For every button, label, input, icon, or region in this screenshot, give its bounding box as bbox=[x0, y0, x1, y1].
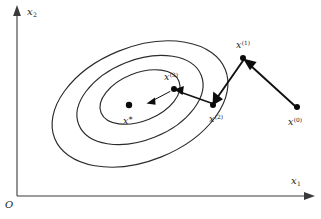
contour-descent-figure: x2 x1 O x(0) x(1) x(2) x(3) x* bbox=[0, 0, 321, 219]
point-marker-xstar bbox=[126, 102, 132, 108]
point-marker-x0 bbox=[294, 104, 300, 110]
point-label-x3-base: x bbox=[164, 71, 169, 82]
point-label-xstar: x* bbox=[123, 116, 132, 126]
descent-path-group bbox=[147, 59, 296, 107]
point-label-x2: x(2) bbox=[209, 114, 223, 124]
origin-label: O bbox=[5, 200, 13, 210]
step-1-to-2-shaft bbox=[217, 60, 244, 98]
x-axis-arrowhead-icon bbox=[304, 192, 315, 200]
y-axis-label-subscript: 2 bbox=[33, 11, 37, 18]
point-label-x2-superscript: (2) bbox=[215, 114, 223, 120]
x-axis-label: x1 bbox=[291, 176, 301, 186]
point-label-x0-base: x bbox=[288, 116, 293, 127]
point-label-x0-superscript: (0) bbox=[294, 117, 302, 123]
point-label-xstar-base: x bbox=[123, 115, 128, 126]
point-label-x3: x(3) bbox=[164, 72, 178, 82]
middle-contour bbox=[64, 38, 216, 162]
point-marker-x3 bbox=[171, 86, 177, 92]
y-axis-label-base: x bbox=[27, 6, 33, 17]
y-axis-label: x2 bbox=[27, 7, 37, 17]
point-marker-x1 bbox=[240, 55, 246, 61]
point-label-x0: x(0) bbox=[288, 117, 302, 127]
point-label-x3-superscript: (3) bbox=[170, 72, 178, 78]
point-label-xstar-superscript: * bbox=[129, 115, 133, 124]
point-label-x1-superscript: (1) bbox=[242, 40, 250, 46]
x-axis-label-base: x bbox=[291, 175, 297, 186]
step-3-to-star-arrowhead-icon bbox=[147, 97, 156, 104]
y-axis-arrowhead-icon bbox=[13, 5, 21, 16]
point-label-x1-base: x bbox=[236, 39, 241, 50]
x-axis-label-subscript: 1 bbox=[297, 180, 301, 187]
step-2-to-3-shaft bbox=[180, 92, 211, 103]
axes-group bbox=[13, 5, 315, 200]
point-label-x2-base: x bbox=[209, 113, 214, 124]
point-label-x1: x(1) bbox=[236, 40, 250, 50]
inner-contour bbox=[92, 59, 188, 135]
point-marker-x2 bbox=[210, 102, 216, 108]
step-0-to-1-shaft bbox=[251, 66, 296, 107]
figure-canvas bbox=[0, 0, 321, 219]
